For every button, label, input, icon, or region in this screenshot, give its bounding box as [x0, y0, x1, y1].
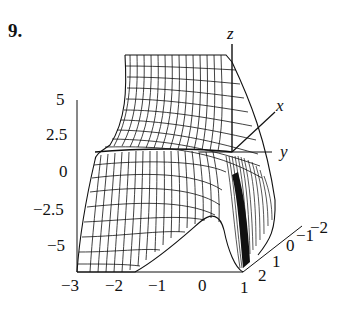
z-axis-label: z [227, 24, 234, 44]
z-tick-neg5: −5 [47, 236, 65, 256]
surface-plot-figure: 9. [0, 0, 348, 314]
x-tick-neg2: −2 [310, 218, 328, 238]
trough-shadow [232, 172, 250, 268]
y-tick-1: 1 [240, 278, 249, 298]
x-tick-2: 2 [258, 266, 267, 286]
x-axis-label: x [276, 96, 284, 116]
x-axis-line [232, 112, 275, 152]
y-tick-neg1: −1 [148, 276, 166, 296]
z-tick-2.5: 2.5 [46, 125, 67, 145]
surface-wireframe [0, 0, 348, 314]
z-tick-5: 5 [56, 90, 65, 110]
y-tick-neg3: −3 [61, 276, 79, 296]
y-tick-neg2: −2 [105, 276, 123, 296]
y-tick-0: 0 [198, 276, 207, 296]
z-tick-neg2.5: −2.5 [33, 200, 64, 220]
z-tick-0: 0 [59, 162, 68, 182]
y-axis-label: y [280, 142, 288, 162]
x-tick-0: 0 [286, 236, 295, 256]
x-tick-1: 1 [272, 252, 281, 272]
